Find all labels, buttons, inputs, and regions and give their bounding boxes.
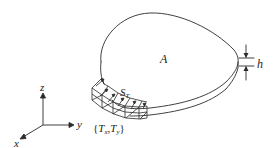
diagram-canvas <box>0 0 273 148</box>
traction-surface-label: ST <box>120 87 129 100</box>
z-axis-arrow-icon <box>41 93 46 98</box>
coordinate-axes <box>20 93 74 139</box>
area-label: A <box>160 53 167 65</box>
thickness-label: h <box>257 58 263 70</box>
x-axis <box>23 125 43 137</box>
y-axis-label: y <box>77 119 82 130</box>
traction-vector-label: {Tx,Ty} <box>93 123 125 136</box>
thickness-dimension <box>239 45 254 80</box>
thickness-arrow-up-icon <box>244 66 249 71</box>
traction-surface-subscript: T <box>126 92 130 100</box>
y-axis-arrow-icon <box>69 123 74 128</box>
brace-close: } <box>120 122 125 134</box>
x-axis-label: x <box>14 138 19 148</box>
thickness-arrow-down-icon <box>244 53 249 58</box>
x-axis-arrow-icon <box>20 134 26 139</box>
z-axis-label: z <box>40 82 44 93</box>
plate-diagram: A h ST {Tx,Ty} z y x <box>0 0 273 148</box>
